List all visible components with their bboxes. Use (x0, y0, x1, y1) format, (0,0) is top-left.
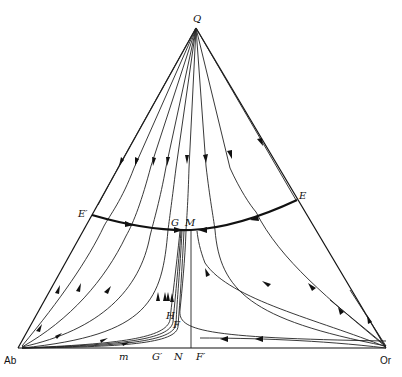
point-label-m: M (184, 217, 196, 228)
arrow-icon (156, 292, 160, 301)
arrow-icon (152, 157, 156, 166)
base-label-f-prime: F′ (195, 351, 206, 362)
arrow-icon (308, 283, 316, 291)
path-or-3 (330, 300, 386, 346)
path-g-2 (22, 231, 181, 348)
or-side-paths (197, 231, 386, 348)
point-label-e-prime: E′ (77, 208, 88, 219)
vertex-label-ab: Ab (4, 355, 17, 366)
base-label-g-prime: G′ (152, 351, 163, 362)
arrow-icon (104, 286, 111, 294)
path-g-1 (22, 231, 180, 348)
path-q-1 (98, 28, 196, 205)
vertex-label-or: Or (380, 355, 392, 366)
arrow-icon (257, 138, 263, 146)
vertex-label-q: Q (193, 13, 201, 24)
path-g-3 (22, 231, 182, 348)
path-q-9 (196, 28, 296, 200)
base-label-n: N (173, 351, 184, 362)
ternary-diagram: Q Ab Or E′ E G M H F m G′ N F′ (0, 0, 402, 377)
path-hf (180, 231, 386, 341)
g-bundle-paths (22, 231, 386, 348)
crystallization-paths-from-q (22, 28, 386, 348)
arrow-icon (262, 281, 271, 287)
arrow-icon (220, 336, 228, 342)
path-or-2 (197, 231, 386, 347)
arrow-icon (166, 292, 170, 301)
arrow-icon (205, 268, 210, 277)
arrow-icon (198, 227, 207, 233)
point-label-e: E (298, 190, 307, 201)
point-label-g: G (171, 217, 179, 228)
path-q-6 (186, 28, 196, 230)
arrow-icon (170, 293, 174, 302)
base-label-m: m (119, 351, 128, 362)
arrow-icon (203, 154, 208, 163)
arrow-icon (55, 333, 62, 339)
point-label-f: F (172, 319, 181, 330)
edge-q-or (196, 28, 386, 348)
arrow-icon (55, 285, 60, 294)
arrow-icon (76, 283, 81, 292)
arrow-icon (185, 155, 189, 164)
